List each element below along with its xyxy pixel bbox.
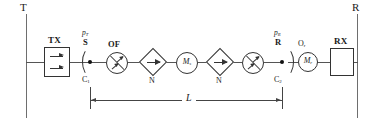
- m1-circle-icon[interactable]: Ms: [176, 52, 198, 74]
- connector-c2-label: C2: [274, 76, 282, 85]
- connector-c2-port-label: R: [275, 38, 281, 47]
- of-amplifier-icon[interactable]: [106, 52, 128, 74]
- amp2-amplifier-icon[interactable]: [242, 52, 264, 74]
- m1-letter: Ms: [183, 58, 192, 67]
- connector-c2-bracket: [278, 48, 294, 76]
- dimension-tick-right: [282, 87, 283, 109]
- of-arrow-lower: [112, 64, 119, 70]
- amp2-arrow-lower: [248, 64, 255, 70]
- n2-caption: N: [216, 77, 222, 85]
- rx-label: RX: [334, 37, 348, 46]
- link-line-or-rx: [316, 62, 330, 63]
- diagram-canvas: T R TX pT S C1 OF N Ms N: [0, 0, 381, 125]
- dimension-label: L: [182, 93, 196, 103]
- tx-label: TX: [48, 36, 61, 45]
- or-letter: Mr: [304, 57, 313, 66]
- connector-c1-label: C1: [82, 76, 90, 85]
- or-circle-icon[interactable]: Mr: [298, 52, 318, 72]
- tx-arrow-lower: [50, 68, 63, 69]
- tx-arrow-upper: [50, 56, 63, 57]
- connector-c2-index: 2: [279, 79, 281, 84]
- or-top-label: Or: [298, 40, 305, 49]
- right-boundary-line: [357, 14, 358, 118]
- n1-caption: N: [149, 77, 155, 85]
- left-boundary-line: [26, 14, 27, 118]
- dimension-arrow-left: [91, 98, 96, 102]
- tx-box[interactable]: [44, 47, 70, 77]
- link-line-tx-in: [26, 62, 44, 63]
- of-label: OF: [108, 40, 120, 49]
- n2-arrow: [214, 62, 227, 63]
- dimension-arrow-right: [276, 98, 281, 102]
- connector-c1-index: 1: [87, 79, 89, 84]
- right-endpoint-label: R: [352, 2, 359, 13]
- left-endpoint-label: T: [20, 2, 27, 13]
- n1-arrow: [147, 62, 160, 63]
- rx-box[interactable]: [330, 48, 354, 76]
- or-top-subscript: r: [304, 43, 306, 48]
- connector-c1-port-label: S: [83, 38, 88, 47]
